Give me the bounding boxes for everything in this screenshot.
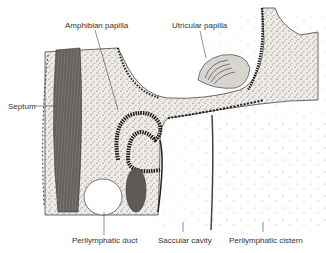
label-utricular-papilla: Utricular papilla <box>172 21 227 30</box>
glandular-body <box>126 168 146 212</box>
histology-diagram <box>0 0 326 253</box>
label-perilymphatic-duct: Perilymphatic duct <box>72 236 137 245</box>
perilymphatic-duct <box>84 179 122 215</box>
label-perilymphatic-cistern: Perilymphatic cistern <box>229 236 303 245</box>
septum <box>53 48 81 212</box>
label-septum: Septum <box>8 102 36 111</box>
label-saccular-cavity: Saccular cavity <box>158 236 212 245</box>
label-amphibian-papilla: Amphibian papilla <box>65 21 128 30</box>
